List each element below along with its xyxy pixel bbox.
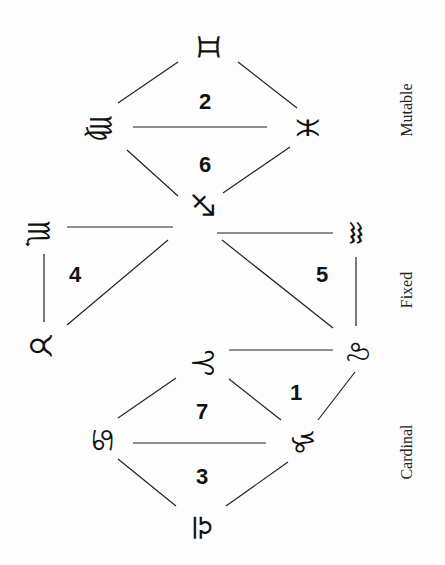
connection-lines [0,0,445,565]
modality-label-mutable: Mutable [398,83,416,136]
leo-icon: ♌ [342,339,372,366]
cancer-icon: ♋ [87,427,117,454]
capricorn-icon: ♑ [287,429,317,456]
region-number: 7 [196,399,208,425]
modality-label-fixed: Fixed [398,272,416,308]
modality-label-cardinal: Cardinal [398,424,416,479]
taurus-icon: ♉ [25,333,55,360]
gemini-icon: ♊ [193,34,223,61]
virgo-icon: ♍ [85,115,115,142]
aquarius-icon: ♒ [340,220,370,247]
libra-icon: ♎ [187,515,217,542]
sagittarius-icon: ♐ [187,192,217,219]
modality-diagram: ♊ ♍ ♓ ♐ ♏ ♒ ♉ ♌ ♈ ♋ ♑ ♎ 2 6 4 5 1 7 3 Mu… [0,0,445,565]
region-number: 1 [290,380,302,406]
aries-icon: ♈ [187,350,217,377]
region-number: 4 [69,262,81,288]
region-number: 2 [199,89,211,115]
region-number: 3 [196,464,208,490]
pisces-icon: ♓ [292,115,322,142]
region-number: 5 [316,262,328,288]
scorpio-icon: ♏ [23,221,53,248]
region-number: 6 [199,152,211,178]
